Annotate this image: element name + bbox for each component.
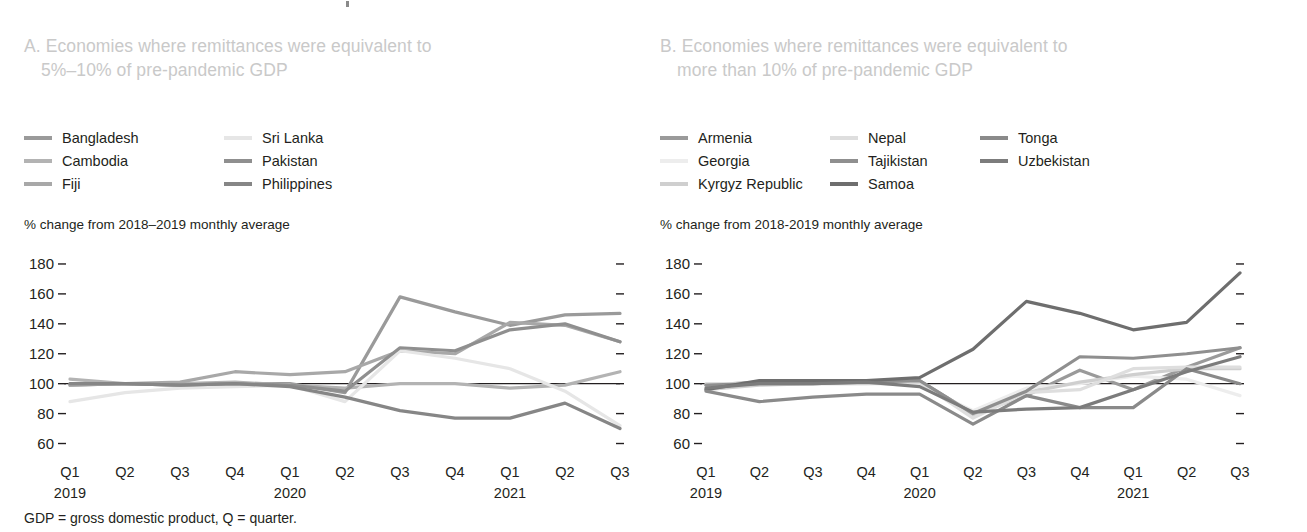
page-crop-mark	[346, 1, 349, 7]
x-tick-label-6: Q3	[390, 464, 409, 480]
legend-item-pakistan[interactable]: Pakistan	[224, 149, 332, 172]
y-tick-label-180: 180	[29, 255, 54, 272]
series-line-fiji	[70, 322, 620, 385]
legend-swatch-georgia	[660, 159, 688, 163]
legend-item-kyrgyz-republic[interactable]: Kyrgyz Republic	[660, 172, 830, 195]
y-tick-label-80: 80	[37, 405, 54, 422]
legend-item-georgia[interactable]: Georgia	[660, 149, 830, 172]
x-tick-label-8: Q1	[500, 464, 519, 480]
panel-b-axis-note: % change from 2018-2019 monthly average	[660, 217, 1307, 232]
legend-label-kyrgyz-republic: Kyrgyz Republic	[698, 177, 803, 191]
legend-label-nepal: Nepal	[868, 131, 906, 145]
panel-a-legend: Bangladesh Cambodia Fiji Sri Lanka	[24, 126, 660, 195]
y-tick-label-180: 180	[665, 255, 690, 272]
legend-label-uzbekistan: Uzbekistan	[1018, 154, 1090, 168]
legend-swatch-pakistan	[224, 159, 252, 163]
x-tick-label-10: Q3	[1230, 464, 1249, 480]
legend-swatch-tonga	[980, 136, 1008, 140]
x-tick-label-0: Q1	[60, 464, 79, 480]
panel-a-title-line1: A. Economies where remittances were equi…	[24, 36, 432, 56]
legend-swatch-uzbekistan	[980, 159, 1008, 163]
y-tick-label-140: 140	[29, 315, 54, 332]
y-tick-label-80: 80	[673, 405, 690, 422]
x-tick-label-5: Q2	[963, 464, 982, 480]
legend-item-nepal[interactable]: Nepal	[830, 126, 980, 149]
panel-b-legend-col-1: Armenia Georgia Kyrgyz Republic	[660, 126, 830, 195]
legend-label-fiji: Fiji	[62, 177, 81, 191]
x-year-label-2019: 2019	[54, 485, 86, 501]
y-tick-label-60: 60	[37, 435, 54, 452]
panel-a-axis-note: % change from 2018–2019 monthly average	[24, 217, 660, 232]
y-tick-label-120: 120	[665, 345, 690, 362]
legend-item-cambodia[interactable]: Cambodia	[24, 149, 224, 172]
legend-label-armenia: Armenia	[698, 131, 752, 145]
legend-item-philippines[interactable]: Philippines	[224, 172, 332, 195]
panel-a-plot: 6080100120140160180Q1Q2Q3Q4Q1Q2Q3Q4Q1Q2Q…	[24, 242, 660, 507]
panel-b-title-line2: more than 10% of pre-pandemic GDP	[660, 58, 1307, 82]
y-tick-label-100: 100	[665, 375, 690, 392]
legend-item-tonga[interactable]: Tonga	[980, 126, 1090, 149]
legend-label-tonga: Tonga	[1018, 131, 1058, 145]
y-tick-label-140: 140	[665, 315, 690, 332]
legend-swatch-kyrgyz-republic	[660, 182, 688, 186]
x-tick-label-8: Q1	[1124, 464, 1143, 480]
legend-swatch-nepal	[830, 136, 858, 140]
panel-a-chart-svg: 6080100120140160180Q1Q2Q3Q4Q1Q2Q3Q4Q1Q2Q…	[24, 242, 640, 507]
x-year-label-2019: 2019	[690, 485, 722, 501]
legend-item-armenia[interactable]: Armenia	[660, 126, 830, 149]
x-tick-label-9: Q2	[555, 464, 574, 480]
legend-item-samoa[interactable]: Samoa	[830, 172, 980, 195]
legend-label-sri-lanka: Sri Lanka	[262, 131, 323, 145]
legend-label-philippines: Philippines	[262, 177, 332, 191]
legend-swatch-armenia	[660, 136, 688, 140]
x-tick-label-7: Q4	[1070, 464, 1089, 480]
panel-b: B. Economies where remittances were equi…	[660, 0, 1307, 532]
legend-swatch-fiji	[24, 182, 52, 186]
x-year-label-2020: 2020	[274, 485, 306, 501]
panel-a-legend-col-2: Sri Lanka Pakistan Philippines	[224, 126, 332, 195]
legend-item-sri-lanka[interactable]: Sri Lanka	[224, 126, 332, 149]
panel-b-legend-col-2: Nepal Tajikistan Samoa	[830, 126, 980, 195]
x-tick-label-1: Q2	[750, 464, 769, 480]
panel-b-legend: Armenia Georgia Kyrgyz Republic Nepal	[660, 126, 1307, 195]
legend-item-tajikistan[interactable]: Tajikistan	[830, 149, 980, 172]
x-tick-label-7: Q4	[445, 464, 464, 480]
legend-swatch-cambodia	[24, 159, 52, 163]
x-tick-label-3: Q4	[857, 464, 876, 480]
y-tick-label-120: 120	[29, 345, 54, 362]
legend-label-pakistan: Pakistan	[262, 154, 318, 168]
series-line-uzbekistan	[706, 357, 1240, 412]
legend-label-tajikistan: Tajikistan	[868, 154, 928, 168]
y-tick-label-160: 160	[29, 285, 54, 302]
x-tick-label-10: Q3	[610, 464, 629, 480]
x-tick-label-4: Q1	[280, 464, 299, 480]
figure-footnote: GDP = gross domestic product, Q = quarte…	[24, 510, 297, 526]
series-line-kyrgyz-republic	[706, 369, 1240, 415]
legend-swatch-bangladesh	[24, 136, 52, 140]
legend-label-bangladesh: Bangladesh	[62, 131, 139, 145]
y-tick-label-60: 60	[673, 435, 690, 452]
x-year-label-2021: 2021	[494, 485, 526, 501]
legend-swatch-tajikistan	[830, 159, 858, 163]
panel-a: A. Economies where remittances were equi…	[0, 0, 660, 532]
x-year-label-2020: 2020	[903, 485, 935, 501]
legend-swatch-samoa	[830, 182, 858, 186]
legend-item-fiji[interactable]: Fiji	[24, 172, 224, 195]
panel-a-title: A. Economies where remittances were equi…	[24, 10, 660, 106]
x-tick-label-0: Q1	[696, 464, 715, 480]
panel-b-title: B. Economies where remittances were equi…	[660, 10, 1307, 106]
x-tick-label-1: Q2	[115, 464, 134, 480]
legend-swatch-sri-lanka	[224, 136, 252, 140]
panel-b-plot: 6080100120140160180Q1Q2Q3Q4Q1Q2Q3Q4Q1Q2Q…	[660, 242, 1307, 507]
legend-item-uzbekistan[interactable]: Uzbekistan	[980, 149, 1090, 172]
x-tick-label-2: Q3	[803, 464, 822, 480]
legend-label-georgia: Georgia	[698, 154, 750, 168]
legend-label-samoa: Samoa	[868, 177, 914, 191]
x-tick-label-3: Q4	[225, 464, 244, 480]
remittances-figure: A. Economies where remittances were equi…	[0, 0, 1307, 532]
panel-a-title-line2: 5%–10% of pre-pandemic GDP	[24, 58, 660, 82]
x-tick-label-5: Q2	[335, 464, 354, 480]
legend-item-bangladesh[interactable]: Bangladesh	[24, 126, 224, 149]
x-tick-label-4: Q1	[910, 464, 929, 480]
x-tick-label-6: Q3	[1017, 464, 1036, 480]
